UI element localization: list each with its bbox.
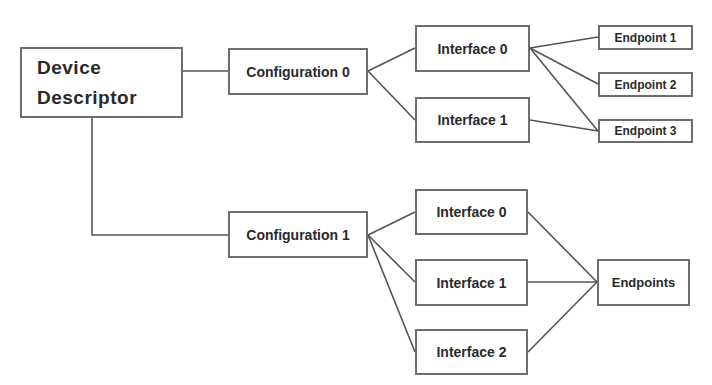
endpoint-2-label: Endpoint 2 xyxy=(615,78,677,92)
connector-device-config1 xyxy=(92,118,228,235)
endpoint-3-box: Endpoint 3 xyxy=(598,119,693,143)
connector-config0-interface0 xyxy=(368,48,415,71)
connector-config1-interface2 xyxy=(368,235,415,352)
device-descriptor-box: Device Descriptor xyxy=(20,47,183,118)
configuration-0-box: Configuration 0 xyxy=(228,48,368,95)
config1-interface-0-box: Interface 0 xyxy=(415,189,528,235)
endpoint-1-box: Endpoint 1 xyxy=(598,25,693,50)
connector-c0i0-endpoint2 xyxy=(530,48,598,84)
device-descriptor-label: Device Descriptor xyxy=(37,53,147,113)
config1-interface-2-box: Interface 2 xyxy=(415,329,528,375)
config1-interface-1-box: Interface 1 xyxy=(415,259,528,306)
config0-interface-0-box: Interface 0 xyxy=(415,25,530,72)
configuration-0-label: Configuration 0 xyxy=(246,64,349,80)
config1-interface-2-label: Interface 2 xyxy=(436,344,506,360)
config1-interface-0-label: Interface 0 xyxy=(436,204,506,220)
endpoint-2-box: Endpoint 2 xyxy=(598,72,693,97)
config0-interface-1-box: Interface 1 xyxy=(415,97,530,143)
connector-c0i0-endpoint1 xyxy=(530,37,598,48)
config1-interface-1-label: Interface 1 xyxy=(436,275,506,291)
connector-c0i1-endpoint3 xyxy=(530,120,598,131)
config0-interface-1-label: Interface 1 xyxy=(437,112,507,128)
endpoints-label: Endpoints xyxy=(612,275,676,290)
connector-config0-interface1 xyxy=(368,71,415,120)
endpoint-3-label: Endpoint 3 xyxy=(615,124,677,138)
endpoints-box: Endpoints xyxy=(597,259,690,306)
configuration-1-label: Configuration 1 xyxy=(246,227,349,243)
connector-c0i0-endpoint3 xyxy=(530,48,598,131)
configuration-1-box: Configuration 1 xyxy=(228,211,368,258)
endpoint-1-label: Endpoint 1 xyxy=(615,31,677,45)
connector-c1i2-endpoints xyxy=(528,282,597,352)
connector-c1i0-endpoints xyxy=(528,212,597,282)
config0-interface-0-label: Interface 0 xyxy=(437,41,507,57)
connector-config1-interface1 xyxy=(368,235,415,282)
usb-descriptor-tree-diagram: Device Descriptor Configuration 0 Interf… xyxy=(0,0,712,385)
connector-config1-interface0 xyxy=(368,212,415,235)
